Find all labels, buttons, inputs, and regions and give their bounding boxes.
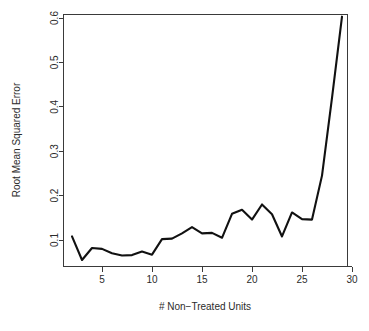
x-tick-label: 5 (99, 274, 105, 285)
y-tick-label: 0.6 (49, 11, 60, 25)
x-tick-label: 15 (196, 274, 208, 285)
x-tick-label: 25 (296, 274, 308, 285)
y-axis-title: Root Mean Squared Error (11, 82, 22, 197)
rmse-line-chart: 0.10.20.30.40.50.6 51015202530 # Non−Tre… (0, 0, 369, 331)
y-tick-label: 0.2 (49, 188, 60, 202)
y-tick-label: 0.4 (49, 99, 60, 113)
y-tick-label: 0.3 (49, 144, 60, 158)
y-tick-label: 0.1 (49, 233, 60, 247)
chart-background (0, 0, 369, 331)
y-tick-label: 0.5 (49, 55, 60, 69)
x-tick-label: 30 (346, 274, 358, 285)
x-axis-title: # Non−Treated Units (159, 301, 251, 312)
chart-figure: 0.10.20.30.40.50.6 51015202530 # Non−Tre… (0, 0, 369, 331)
x-tick-label: 20 (246, 274, 258, 285)
x-tick-label: 10 (146, 274, 158, 285)
